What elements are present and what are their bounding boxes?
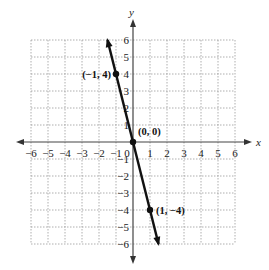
coordinate-plane-chart: xy −6−5−4−3−2−11234560654321−1−2−3−4−5−6… (0, 0, 269, 270)
line-arrow-down-icon (153, 236, 160, 246)
x-tick-label: −3 (76, 147, 88, 159)
y-axis-down-arrow-icon (130, 256, 136, 264)
y-tick-label: 6 (124, 34, 130, 46)
y-tick-label: 3 (124, 85, 130, 97)
x-tick-label: 1 (147, 147, 153, 159)
data-point-marker (130, 139, 136, 145)
y-tick-label: −4 (117, 204, 129, 216)
y-tick-label: −2 (117, 170, 129, 182)
x-tick-label: −4 (59, 147, 71, 159)
data-point-label: (−1, 4) (82, 69, 111, 81)
y-tick-label: −5 (117, 221, 129, 233)
x-tick-label: 4 (198, 147, 204, 159)
x-tick-label: 3 (181, 147, 187, 159)
line-arrow-up-icon (106, 38, 113, 48)
x-axis-left-arrow-icon (16, 139, 24, 145)
y-tick-label: 5 (124, 51, 130, 63)
x-axis-right-arrow-icon (244, 139, 252, 145)
data-point-marker (147, 207, 153, 213)
data-point-label: (1, −4) (156, 205, 185, 217)
data-point-label: (0, 0) (138, 126, 161, 138)
x-tick-label: −5 (42, 147, 54, 159)
x-tick-label: 5 (215, 147, 221, 159)
x-tick-label: 2 (164, 147, 170, 159)
y-axis-label: y (128, 6, 134, 18)
x-tick-label: 6 (232, 147, 238, 159)
x-axis-label: x (255, 136, 261, 148)
y-axis-up-arrow-icon (130, 19, 136, 27)
y-tick-label: −1 (117, 153, 129, 165)
x-tick-label: −6 (25, 147, 37, 159)
x-tick-label: −2 (93, 147, 105, 159)
data-point-marker (113, 71, 119, 77)
y-tick-label: 4 (124, 68, 130, 80)
y-tick-label: −3 (117, 187, 129, 199)
y-tick-label: −6 (117, 238, 129, 250)
